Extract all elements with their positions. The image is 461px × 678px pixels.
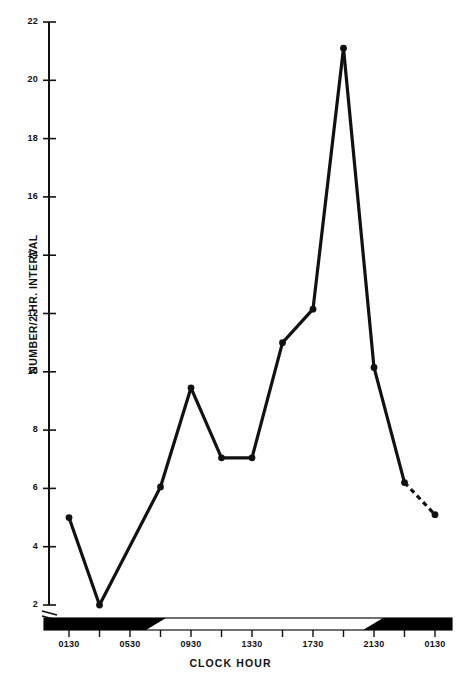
y-axis-tick-label: 12	[16, 308, 38, 318]
series-line-segment	[252, 343, 283, 458]
daynight-bar-dark-segment	[44, 618, 146, 630]
series-data-point	[401, 479, 408, 486]
chart-figure: NUMBER/2-HR. INTERVAL CLOCK HOUR 2220181…	[0, 0, 461, 678]
series-line-segment	[191, 388, 222, 458]
x-axis-title: CLOCK HOUR	[0, 657, 461, 669]
series-data-point	[188, 384, 195, 391]
x-axis-tick-label: 0130	[49, 639, 89, 649]
series-data-point	[157, 484, 164, 491]
series-line-segment	[100, 487, 161, 605]
series-data-point	[218, 454, 225, 461]
y-axis-tick-label: 20	[16, 74, 38, 84]
x-axis-tick-label: 2130	[354, 639, 394, 649]
y-axis-tick-label: 4	[16, 541, 38, 551]
series-data-point	[279, 339, 286, 346]
series-data-point	[310, 306, 317, 313]
series-line-segment	[313, 48, 344, 309]
series-data-point	[66, 514, 73, 521]
series-line-segment	[344, 48, 375, 367]
daynight-bar-dark-segment	[383, 618, 452, 630]
x-axis-tick-label: 0930	[171, 639, 211, 649]
series-data-point	[340, 45, 347, 52]
series-data-point	[432, 511, 439, 518]
y-axis-tick-label: 10	[16, 366, 38, 376]
x-axis-tick-label: 1730	[293, 639, 333, 649]
chart-plot-area	[0, 0, 461, 678]
x-axis-tick-label: 0130	[415, 639, 455, 649]
x-axis-tick-label: 1330	[232, 639, 272, 649]
series-data-point	[371, 364, 378, 371]
series-data-point	[96, 602, 103, 609]
series-line-segment-dashed	[405, 483, 436, 515]
y-axis-tick-label: 14	[16, 249, 38, 259]
series-line-segment	[374, 367, 405, 482]
y-axis-tick-label: 8	[16, 424, 38, 434]
series-line-segment	[283, 309, 314, 343]
series-data-point	[249, 454, 256, 461]
series-line-segment	[161, 388, 192, 487]
y-axis-tick-label: 18	[16, 133, 38, 143]
y-axis-tick-label: 6	[16, 482, 38, 492]
y-axis-tick-label: 16	[16, 191, 38, 201]
series-line-segment	[69, 518, 100, 605]
x-axis-tick-label: 0530	[110, 639, 150, 649]
y-axis-tick-label: 2	[16, 599, 38, 609]
y-axis-tick-label: 22	[16, 16, 38, 26]
